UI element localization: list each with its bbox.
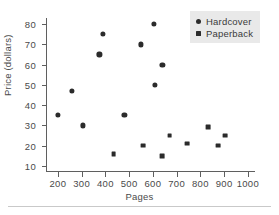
y-axis-tick: 30	[42, 125, 47, 126]
x-axis-tick-label: 300	[73, 178, 90, 189]
y-axis-tick: 20	[42, 146, 47, 147]
x-axis-tick-label: 200	[49, 178, 66, 189]
data-point-paperback	[185, 141, 190, 146]
scatter-plot-figure: 1020304050607080 20030040050060070080090…	[0, 0, 279, 215]
x-axis-tick	[200, 172, 201, 177]
y-axis-tick: 80	[42, 24, 47, 25]
legend-label-hardcover: Hardcover	[206, 16, 252, 27]
data-point-paperback	[141, 143, 146, 148]
data-point-hardcover	[55, 113, 60, 118]
y-axis-tick-label: 60	[25, 59, 36, 70]
data-point-hardcover	[100, 32, 105, 37]
x-axis-tick-label: 700	[168, 178, 185, 189]
data-point-paperback	[167, 133, 172, 138]
y-axis-tick: 10	[42, 166, 47, 167]
x-axis-title: Pages	[0, 191, 279, 202]
x-axis-tick	[82, 172, 83, 177]
legend-label-paperback: Paperback	[206, 28, 253, 39]
x-axis-tick-label: 900	[216, 178, 233, 189]
y-axis-tick: 60	[42, 65, 47, 66]
data-point-hardcover	[160, 62, 165, 67]
y-axis-line	[46, 18, 47, 172]
data-point-hardcover	[122, 113, 127, 118]
legend-item-paperback: Paperback	[196, 27, 253, 39]
data-point-paperback	[222, 133, 227, 138]
x-axis-tick-label: 1000	[237, 178, 259, 189]
data-point-hardcover	[70, 88, 75, 93]
y-axis-tick: 50	[42, 85, 47, 86]
x-axis-tick	[248, 172, 249, 177]
y-axis-tick-label: 70	[25, 39, 36, 50]
x-axis-tick	[224, 172, 225, 177]
x-axis-tick-label: 800	[192, 178, 209, 189]
bottom-divider	[8, 206, 271, 207]
legend-item-hardcover: Hardcover	[196, 15, 253, 27]
data-point-hardcover	[97, 52, 102, 57]
y-axis-tick-label: 10	[25, 160, 36, 171]
data-point-paperback	[216, 143, 221, 148]
square-marker-icon	[196, 31, 201, 36]
y-axis-tick: 70	[42, 44, 47, 45]
x-axis-tick-label: 600	[144, 178, 161, 189]
legend: Hardcover Paperback	[190, 11, 260, 43]
circle-marker-icon	[196, 19, 201, 24]
y-axis-tick-label: 20	[25, 140, 36, 151]
data-point-hardcover	[138, 42, 143, 47]
x-axis-tick	[153, 172, 154, 177]
y-axis-tick: 40	[42, 105, 47, 106]
data-point-paperback	[206, 125, 211, 130]
x-axis-tick-label: 500	[121, 178, 138, 189]
x-axis-tick	[58, 172, 59, 177]
data-point-hardcover	[151, 21, 156, 26]
data-point-hardcover	[153, 82, 158, 87]
x-axis-tick	[105, 172, 106, 177]
x-axis-tick	[177, 172, 178, 177]
data-point-hardcover	[80, 123, 85, 128]
data-point-paperback	[111, 151, 116, 156]
y-axis-tick-label: 80	[25, 19, 36, 30]
data-point-paperback	[160, 153, 165, 158]
y-axis-tick-label: 50	[25, 79, 36, 90]
x-axis-tick	[129, 172, 130, 177]
y-axis-title: Price (dollars)	[2, 34, 13, 96]
x-axis-tick-label: 400	[97, 178, 114, 189]
y-axis-tick-label: 30	[25, 120, 36, 131]
y-axis-tick-label: 40	[25, 100, 36, 111]
